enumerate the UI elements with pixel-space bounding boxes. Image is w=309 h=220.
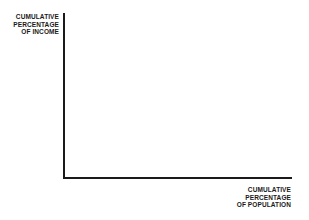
y-axis-label-line: PERCENTAGE	[13, 21, 59, 29]
y-axis-label: CUMULATIVE PERCENTAGE OF INCOME	[13, 13, 59, 36]
x-axis-label-line: PERCENTAGE	[237, 194, 291, 202]
y-axis-line	[63, 13, 65, 179]
x-axis-label-line: OF POPULATION	[237, 201, 291, 209]
y-axis-label-line: CUMULATIVE	[13, 13, 59, 21]
y-axis-label-line: OF INCOME	[13, 28, 59, 36]
x-axis-line	[63, 177, 292, 179]
x-axis-label-line: CUMULATIVE	[237, 186, 291, 194]
x-axis-label: CUMULATIVE PERCENTAGE OF POPULATION	[237, 186, 291, 209]
